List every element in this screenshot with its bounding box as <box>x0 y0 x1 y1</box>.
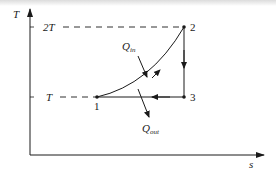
process-1-2-arrow-icon <box>152 70 160 78</box>
q-out-arrow-icon <box>138 89 149 117</box>
state-point-2 <box>182 25 186 29</box>
tick-label-t: T <box>46 91 53 103</box>
state-point-1 <box>95 95 99 99</box>
state-point-3 <box>182 95 186 99</box>
tick-label-2t: 2T <box>43 21 56 33</box>
state-label-1: 1 <box>94 100 100 112</box>
x-axis-label: s <box>249 158 253 170</box>
q-in-label: Qin <box>122 40 136 54</box>
state-label-3: 3 <box>190 91 196 103</box>
y-axis-label: T <box>13 8 20 20</box>
state-label-2: 2 <box>190 21 196 33</box>
q-in-arrow-icon <box>138 56 147 77</box>
t-s-diagram: T s 2T T 1 2 3 Qin Qout <box>0 0 276 172</box>
q-out-label: Qout <box>142 122 160 136</box>
